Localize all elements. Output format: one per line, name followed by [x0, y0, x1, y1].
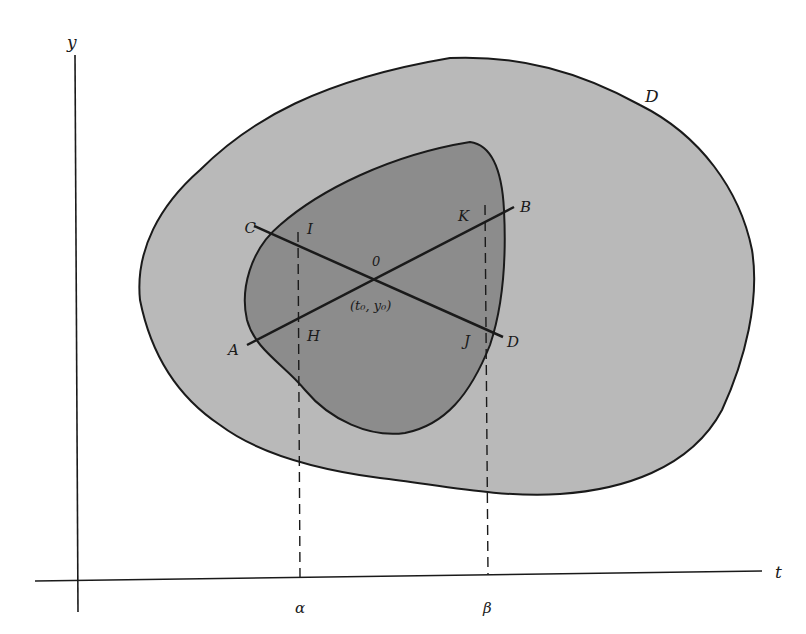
region-d-label: D — [644, 86, 659, 106]
point-a-label: A — [226, 341, 239, 359]
t-axis — [35, 571, 762, 581]
point-coords-label: (t₀, y₀) — [350, 298, 391, 313]
beta-label: β — [482, 599, 492, 617]
y-axis — [75, 55, 78, 612]
point-d-label: D — [506, 333, 519, 351]
point-k-label: K — [457, 207, 470, 225]
point-o-label: 0 — [372, 254, 380, 269]
y-axis-label: y — [66, 32, 77, 52]
point-h-label: H — [306, 327, 321, 345]
diagram-canvas: y t α β D A B C D H I J K 0 (t₀, y₀) — [0, 0, 806, 634]
point-b-label: B — [519, 198, 531, 216]
alpha-label: α — [295, 599, 305, 617]
t-axis-label: t — [775, 562, 782, 582]
point-i-label: I — [306, 220, 314, 238]
point-c-label: C — [245, 219, 257, 237]
